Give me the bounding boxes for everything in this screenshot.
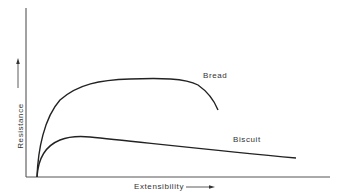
bread-curve	[37, 79, 218, 177]
bread-series-label: Bread	[203, 72, 227, 80]
x-axis-arrow-icon	[186, 185, 215, 189]
x-axis-label: Extensibility	[134, 183, 184, 191]
y-axis-arrow-icon	[16, 58, 20, 88]
biscuit-series-label: Biscuit	[233, 136, 261, 144]
chart-canvas	[0, 0, 344, 196]
y-axis-label: Resistance	[17, 103, 25, 149]
